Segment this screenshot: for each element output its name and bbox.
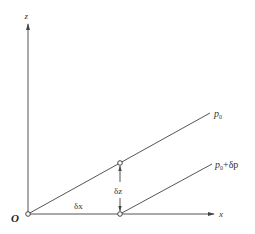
- origin-point: [26, 212, 31, 217]
- lower-point: [118, 212, 123, 217]
- isobar-p0-plus-dp-label: p0+δp: [214, 159, 238, 171]
- dz-arrow: δz: [114, 166, 122, 211]
- origin-label: O: [11, 212, 19, 224]
- isobar-p0-label: p0: [213, 108, 222, 120]
- z-axis-label: z: [24, 11, 29, 21]
- z-axis: z: [24, 11, 29, 214]
- isobar-p0: p0: [28, 108, 222, 214]
- isobar-diagram: z x O p0 p0+δp δz δx: [0, 0, 255, 234]
- dx-label: δx: [74, 201, 83, 211]
- dz-label: δz: [114, 186, 122, 196]
- upper-point: [118, 161, 123, 166]
- isobar-p0-plus-dp: p0+δp: [120, 159, 238, 214]
- x-axis-label: x: [218, 209, 223, 219]
